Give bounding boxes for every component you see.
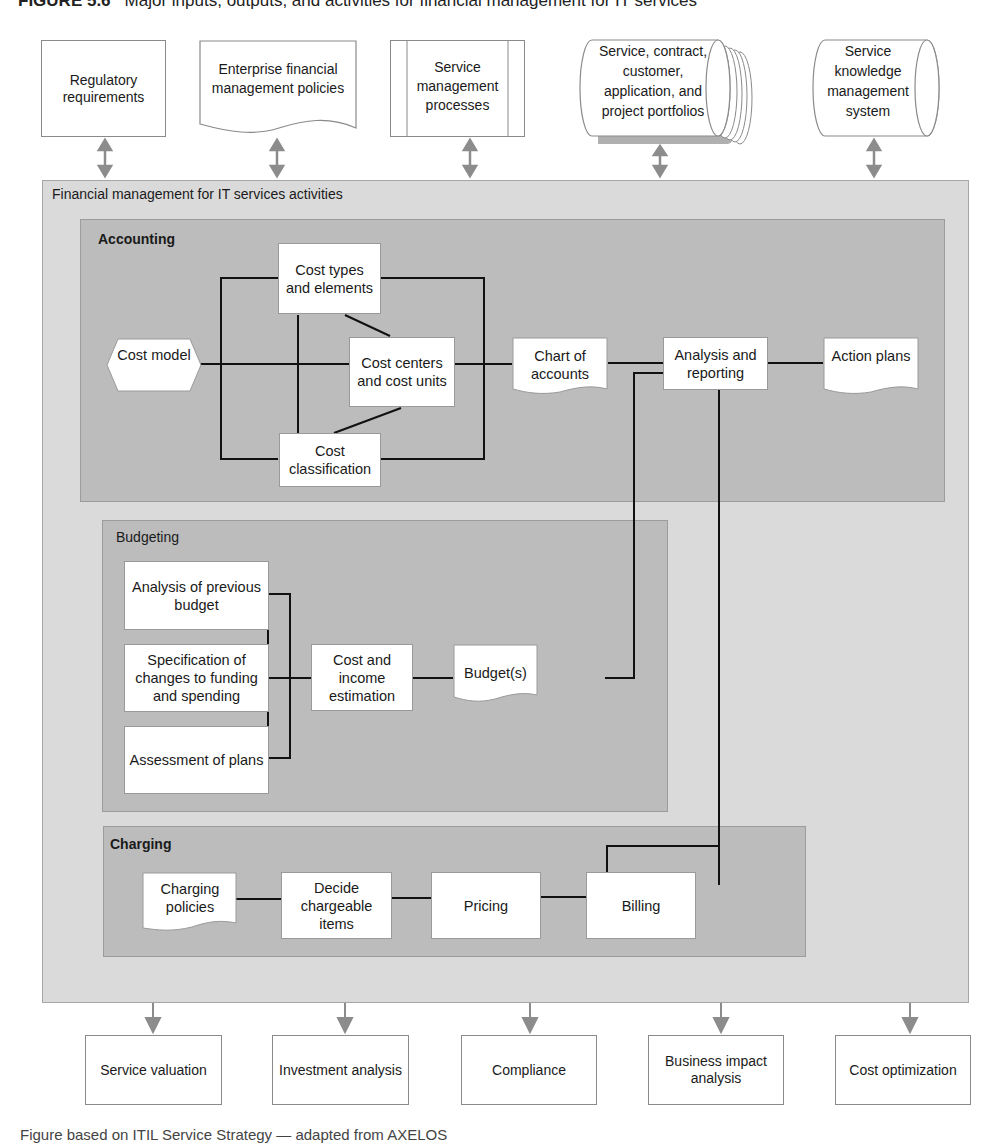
node-assessment-of-plans: Assessment of plans: [124, 726, 269, 794]
input-label: Service knowledge management system: [819, 41, 917, 121]
accounting-label: Accounting: [98, 231, 175, 247]
node-label: Assessment of plans: [130, 751, 264, 769]
output-investment-analysis: Investment analysis: [272, 1035, 409, 1105]
node-label: Analysis of previous budget: [129, 578, 264, 614]
node-label: Cost centers and cost units: [354, 354, 450, 390]
output-compliance: Compliance: [461, 1035, 597, 1105]
node-cost-centers: Cost centers and cost units: [349, 337, 455, 407]
input-label: Service management processes: [410, 58, 505, 115]
input-enterprise-policies: Enterprise financial management policies: [199, 40, 357, 137]
input-label: Enterprise financial management policies: [199, 60, 357, 98]
container-label: Financial management for IT services act…: [52, 186, 343, 202]
figure-caption: Figure based on ITIL Service Strategy — …: [20, 1126, 447, 1143]
node-label: Cost classification: [284, 442, 376, 478]
output-label: Service valuation: [100, 1062, 207, 1079]
node-label: Billing: [622, 897, 661, 915]
node-label: Cost and income estimation: [316, 651, 408, 705]
node-label: Chart of accounts: [512, 347, 608, 383]
node-cost-model: Cost model: [106, 338, 202, 392]
node-specification-changes: Specification of changes to funding and …: [124, 644, 269, 712]
node-label: Decide chargeable items: [286, 879, 387, 933]
node-label: Cost model: [106, 346, 202, 364]
node-label: Budget(s): [453, 664, 538, 682]
figure-number: FIGURE 5.6: [18, 0, 111, 10]
node-billing: Billing: [586, 872, 696, 939]
budgeting-label: Budgeting: [116, 529, 179, 545]
node-label: Cost types and elements: [283, 261, 376, 297]
figure-title: FIGURE 5.6Major inputs, outputs, and act…: [18, 0, 697, 11]
input-portfolios: Service, contract, customer, application…: [578, 38, 758, 148]
node-cost-classification: Cost classification: [279, 433, 381, 487]
node-budgets: Budget(s): [453, 644, 538, 704]
output-label: Business impact analysis: [653, 1053, 779, 1087]
node-label: Action plans: [823, 347, 919, 365]
output-label: Compliance: [492, 1062, 566, 1079]
node-label: Specification of changes to funding and …: [129, 651, 264, 705]
node-label: Charging policies: [143, 880, 237, 916]
node-pricing: Pricing: [431, 872, 541, 939]
input-label: Regulatory requirements: [46, 72, 161, 106]
node-analysis-previous-budget: Analysis of previous budget: [124, 561, 269, 630]
input-label: Service, contract, customer, application…: [588, 41, 718, 121]
node-label: Analysis and reporting: [668, 346, 763, 382]
node-decide-chargeable-items: Decide chargeable items: [281, 872, 392, 939]
node-action-plans: Action plans: [823, 337, 919, 397]
input-knowledge-system: Service knowledge management system: [811, 38, 941, 138]
output-service-valuation: Service valuation: [85, 1035, 222, 1105]
node-label: Pricing: [464, 897, 508, 915]
node-analysis-reporting: Analysis and reporting: [663, 337, 768, 390]
figure-title-text: Major inputs, outputs, and activities fo…: [125, 0, 697, 10]
output-label: Cost optimization: [849, 1062, 956, 1079]
node-cost-types: Cost types and elements: [278, 243, 381, 314]
output-label: Investment analysis: [279, 1062, 402, 1079]
node-chart-of-accounts: Chart of accounts: [512, 337, 608, 397]
output-cost-optimization: Cost optimization: [835, 1035, 971, 1105]
charging-label: Charging: [110, 836, 171, 852]
input-service-management-processes: Service management processes: [390, 40, 525, 137]
node-cost-income-estimation: Cost and income estimation: [311, 644, 413, 711]
node-charging-policies: Charging policies: [117, 872, 237, 932]
output-business-impact-analysis: Business impact analysis: [648, 1035, 784, 1105]
input-regulatory-requirements: Regulatory requirements: [41, 40, 166, 137]
document-shape-icon: [823, 337, 919, 397]
